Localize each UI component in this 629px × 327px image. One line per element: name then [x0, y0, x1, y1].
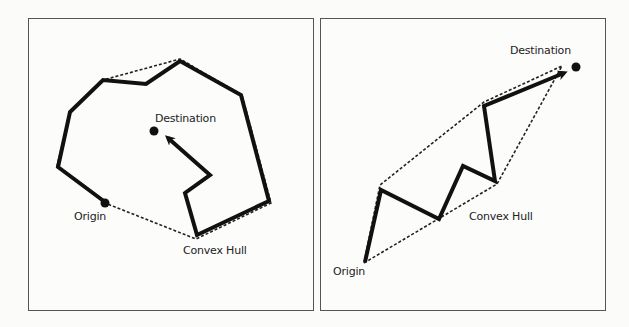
left-origin-label: Origin — [74, 210, 106, 223]
left-path — [58, 61, 269, 235]
right-hull-label: Convex Hull — [469, 210, 533, 223]
right-origin-label: Origin — [333, 265, 365, 278]
right-destination-dot — [572, 63, 581, 72]
left-hull-label: Convex Hull — [183, 244, 247, 257]
left-destination-label: Destination — [155, 112, 216, 125]
left-destination-dot — [150, 127, 159, 136]
right-destination-label: Destination — [510, 44, 571, 57]
right-path — [365, 73, 564, 262]
left-origin-dot — [101, 199, 110, 208]
